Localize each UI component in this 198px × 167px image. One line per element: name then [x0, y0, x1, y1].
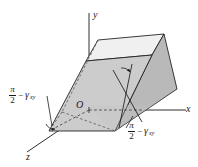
right-angle-gamma: γ	[144, 126, 148, 136]
left-angle-annotation: π 2 − γxy	[9, 85, 36, 105]
left-angle-fraction: π 2	[9, 85, 16, 105]
left-angle-gamma: γ	[25, 90, 29, 100]
right-angle-numerator: π	[128, 121, 135, 131]
right-angle-annotation: π 2 − γxy	[128, 121, 155, 141]
leader-line-left-label	[47, 96, 52, 126]
right-angle-subscript: xy	[149, 130, 154, 136]
origin-label: O	[76, 100, 83, 110]
left-angle-operator: −	[18, 91, 24, 100]
x-axis-label: x	[186, 104, 190, 114]
right-angle-fraction: π 2	[128, 121, 135, 141]
left-angle-subscript: xy	[30, 94, 35, 100]
y-axis-label: y	[93, 10, 97, 20]
figure-canvas	[0, 0, 198, 167]
right-angle-operator: −	[137, 127, 143, 136]
z-axis-label: z	[26, 152, 30, 162]
left-angle-numerator: π	[9, 85, 16, 95]
shear-strain-figure: y x z O π 2 − γxy π 2 − γxy	[0, 0, 198, 167]
right-angle-denominator: 2	[128, 132, 135, 142]
left-angle-denominator: 2	[9, 96, 16, 106]
